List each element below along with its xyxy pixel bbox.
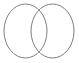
figure-canvas [0, 0, 79, 63]
venn-diagram-svg [0, 0, 79, 63]
